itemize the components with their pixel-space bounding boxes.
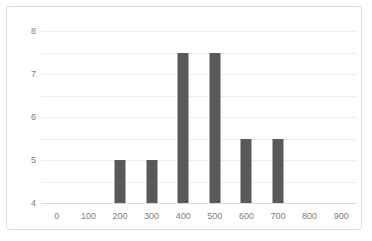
bar-slot: 800 [294, 31, 326, 203]
x-axis-tick-label: 800 [302, 212, 317, 221]
x-axis-line: 0 [41, 203, 357, 204]
x-axis-tick-label: 900 [334, 212, 349, 221]
bar-slot: 700 [262, 31, 294, 203]
bar-slot: 300 [136, 31, 168, 203]
bar-slot: 500 [199, 31, 231, 203]
bar[interactable] [114, 160, 125, 203]
bars-group: 0100200300400500600700800900 [41, 31, 357, 203]
y-axis-tick-label: 4 [31, 199, 36, 208]
y-axis-tick-label: 7 [31, 70, 36, 79]
y-axis-tick-label: 6 [31, 113, 36, 122]
x-axis-tick-label: 700 [270, 212, 285, 221]
x-axis-tick-label: 500 [207, 212, 222, 221]
x-axis-tick-label: 600 [239, 212, 254, 221]
bar[interactable] [272, 139, 283, 204]
y-axis-tick-label: 8 [31, 27, 36, 36]
x-axis-tick-label: 400 [176, 212, 191, 221]
y-axis-tick-label: 5 [31, 156, 36, 165]
chart-frame: 012345678 0100200300400500600700800900 [6, 6, 362, 230]
x-axis-tick-label: 0 [54, 212, 59, 221]
bar-slot: 900 [325, 31, 357, 203]
x-axis-tick-label: 300 [144, 212, 159, 221]
bar[interactable] [209, 53, 220, 204]
plot-area: 012345678 0100200300400500600700800900 [41, 31, 357, 203]
bar-slot: 400 [167, 31, 199, 203]
bar-slot: 600 [231, 31, 263, 203]
x-axis-tick-label: 200 [112, 212, 127, 221]
bar[interactable] [146, 160, 157, 203]
bar-slot: 0 [41, 31, 73, 203]
bar[interactable] [178, 53, 189, 204]
bar-slot: 200 [104, 31, 136, 203]
bar[interactable] [241, 139, 252, 204]
bar-slot: 100 [73, 31, 105, 203]
x-axis-tick-label: 100 [81, 212, 96, 221]
